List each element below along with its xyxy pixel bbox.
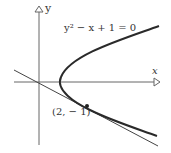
x-axis-label: x <box>152 65 158 76</box>
y-axis-arrow-icon <box>35 6 43 12</box>
x-axis-arrow-icon <box>154 78 160 86</box>
y-axis-label: y <box>45 2 51 15</box>
parabola-curve <box>60 26 159 136</box>
point-label: (2, − 1) <box>52 106 90 117</box>
equation-label: y² − x + 1 = 0 <box>64 22 136 33</box>
